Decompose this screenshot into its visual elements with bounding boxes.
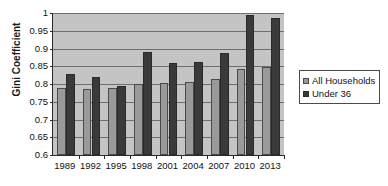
x-axis-tick-label: 2013: [256, 160, 284, 171]
y-axis-tick-label: 0.75: [18, 97, 48, 107]
x-axis-tick-label: 1998: [128, 160, 156, 171]
x-axis-tick: [79, 155, 80, 159]
bar-all-households-2010: [237, 69, 246, 155]
bar-under-36-1989: [66, 74, 75, 155]
bar-under-36-1995: [117, 86, 126, 155]
x-axis-tick: [156, 155, 157, 159]
y-axis-tick: [50, 13, 53, 14]
y-axis-tick-label: 0.85: [18, 61, 48, 71]
y-axis-tick-label: 0.7: [18, 115, 48, 125]
legend-label-under-36: Under 36: [312, 88, 351, 99]
y-axis-tick: [50, 49, 53, 50]
bar-under-36-1992: [92, 77, 101, 155]
x-axis-tick-label: 2004: [179, 160, 207, 171]
bar-under-36-1998: [143, 52, 152, 155]
bar-all-households-1995: [108, 88, 117, 155]
x-axis-tick: [233, 155, 234, 159]
y-axis-tick: [50, 102, 53, 103]
x-axis-tick: [104, 155, 105, 159]
bar-all-households-2013: [262, 67, 271, 155]
y-axis-tick-labels: 10.950.90.850.80.750.70.650.6: [18, 7, 48, 157]
x-axis-tick: [181, 155, 182, 159]
bar-all-households-2004: [185, 82, 194, 155]
bar-all-households-2001: [160, 83, 169, 155]
x-axis-tick-label: 1989: [51, 160, 79, 171]
legend-item-all-households: All Households: [303, 74, 375, 87]
legend-item-under-36: Under 36: [303, 87, 375, 100]
y-axis-tick-label: 0.9: [18, 44, 48, 54]
x-axis-tick: [130, 155, 131, 159]
y-axis-tick-label: 0.65: [18, 132, 48, 142]
bar-all-households-1992: [83, 89, 92, 155]
bar-under-36-2010: [246, 15, 255, 155]
x-axis-tick: [207, 155, 208, 159]
x-axis-tick-label: 1995: [102, 160, 130, 171]
gini-coefficient-bar-chart: Gini Coefficient 10.950.90.850.80.750.70…: [0, 0, 388, 186]
bar-all-households-1998: [134, 84, 143, 155]
plot-area: [52, 13, 284, 156]
y-axis-tick-label: 0.6: [18, 150, 48, 160]
y-axis-tick: [50, 155, 53, 156]
x-axis-tick-label: 1992: [77, 160, 105, 171]
x-axis-tick-label: 2010: [231, 160, 259, 171]
x-axis-tick: [284, 155, 285, 159]
y-axis-tick: [50, 66, 53, 67]
x-axis-tick-labels: 198919921995199820012004200720102013: [52, 160, 283, 176]
y-axis-tick: [50, 120, 53, 121]
x-axis-tick-label: 2007: [205, 160, 233, 171]
x-axis-tick-label: 2001: [154, 160, 182, 171]
legend-swatch-icon-under-36: [303, 91, 309, 97]
chart-legend: All Households Under 36: [299, 70, 380, 104]
y-axis-tick: [50, 84, 53, 85]
legend-swatch-icon-all-households: [303, 78, 309, 84]
y-axis-tick: [50, 31, 53, 32]
bar-under-36-2013: [271, 18, 280, 155]
y-axis-tick-label: 0.95: [18, 26, 48, 36]
y-axis-tick: [50, 137, 53, 138]
bar-all-households-1989: [57, 88, 66, 155]
x-axis-tick: [258, 155, 259, 159]
y-axis-tick-label: 1: [18, 8, 48, 18]
legend-label-all-households: All Households: [312, 75, 375, 86]
bar-under-36-2001: [169, 63, 178, 155]
bar-all-households-2007: [211, 79, 220, 155]
y-axis-tick-label: 0.8: [18, 79, 48, 89]
bar-under-36-2004: [194, 62, 203, 155]
bar-under-36-2007: [220, 53, 229, 155]
